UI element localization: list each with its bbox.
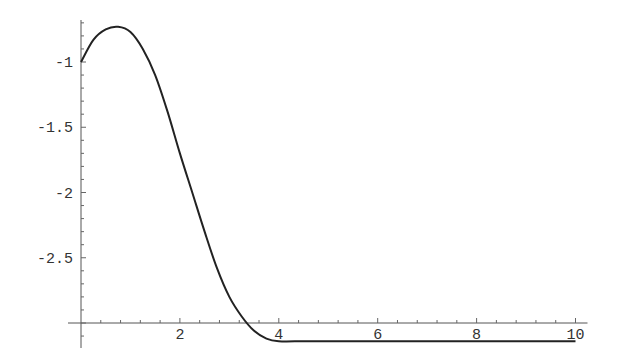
y-tick-label: -1.5	[37, 120, 73, 137]
ticks	[81, 23, 576, 336]
data-curve	[81, 27, 576, 342]
y-tick-label: -1	[55, 55, 73, 72]
x-tick-label: 2	[175, 327, 184, 344]
y-tick-label: -2	[55, 186, 73, 203]
tick-labels: 246810-1-1.5-2-2.5	[37, 55, 585, 344]
line-chart: 246810-1-1.5-2-2.5	[0, 0, 619, 360]
y-tick-label: -2.5	[37, 251, 73, 268]
axes	[68, 20, 588, 348]
